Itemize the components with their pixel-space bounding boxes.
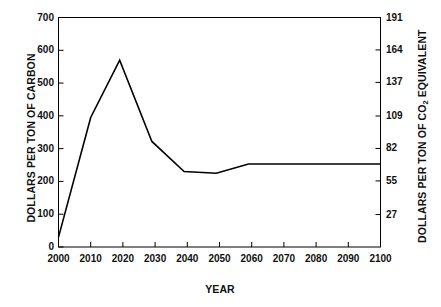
y-axis-ticks-right <box>376 18 381 215</box>
data-series-line <box>59 60 381 237</box>
chart-figure: DOLLARS PER TON OF CARBON DOLLARS PER TO… <box>0 0 441 307</box>
axes-frame <box>59 18 381 248</box>
plot-area <box>0 0 441 307</box>
y-axis-ticks-left <box>59 18 64 248</box>
plot-frame-rect <box>59 18 381 248</box>
x-axis-ticks <box>59 242 381 247</box>
